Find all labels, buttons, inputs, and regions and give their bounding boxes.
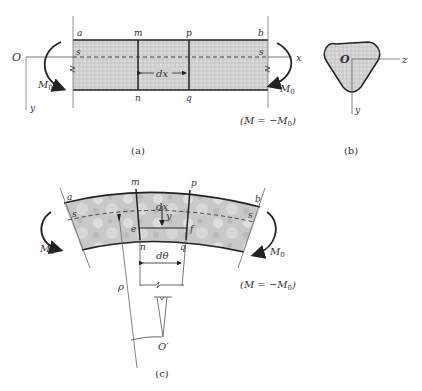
y-distance-label: y [165,210,172,221]
y-axis-label: y [354,105,361,115]
moment-right-label: M0 [269,246,285,259]
section-q-label: q [186,93,192,103]
equation-label: (M = −M0) [240,115,296,128]
fiber-e-label: e [131,224,136,234]
figure-c: a b m p n q e f s s dx y dθ ρ O′ M0 M0 (… [39,177,296,379]
equation-label: (M = −M0) [240,279,296,292]
section-q-label: q [180,242,186,252]
caption-c: (c) [155,368,169,379]
x-axis-label: x [296,52,302,63]
moment-right-arrow-icon [270,43,291,86]
corner-b-label: b [258,28,264,38]
dtheta-label: dθ [156,250,168,261]
moment-right-label: M0 [279,83,295,96]
z-axis-label: z [401,54,408,65]
beam-bending-diagram: O x y a b m p n q s s dx M0 M0 (M = −M0)… [0,0,422,391]
origin-label: O [340,53,350,66]
section-n-label: n [135,93,141,103]
section-p-label: p [186,28,192,38]
origin-label: O [12,51,21,64]
center-label: O′ [158,341,169,352]
rho-label: ρ [117,281,124,292]
corner-a-label: a [67,192,72,202]
neutral-s-left-label: s [72,209,77,219]
beam-body [73,40,268,90]
y-axis-label: y [29,103,36,113]
moment-left-label: M0 [39,243,55,256]
caption-a: (a) [131,145,145,156]
corner-b-label: b [255,194,261,204]
section-m-label: m [131,177,140,187]
section-p-label: p [191,178,197,188]
caption-b: (b) [344,145,358,156]
neutral-s-right-label: s [248,210,253,220]
section-n-label: n [140,242,146,252]
section-m-label: m [134,28,143,38]
corner-a-label: a [77,28,82,38]
neutral-s-left-label: s [76,47,81,57]
neutral-s-right-label: s [259,47,264,57]
figure-b: O z y (b) [324,42,408,156]
dx-label: dx [156,68,168,79]
figure-a: O x y a b m p n q s s dx M0 M0 (M = −M0)… [12,16,302,156]
